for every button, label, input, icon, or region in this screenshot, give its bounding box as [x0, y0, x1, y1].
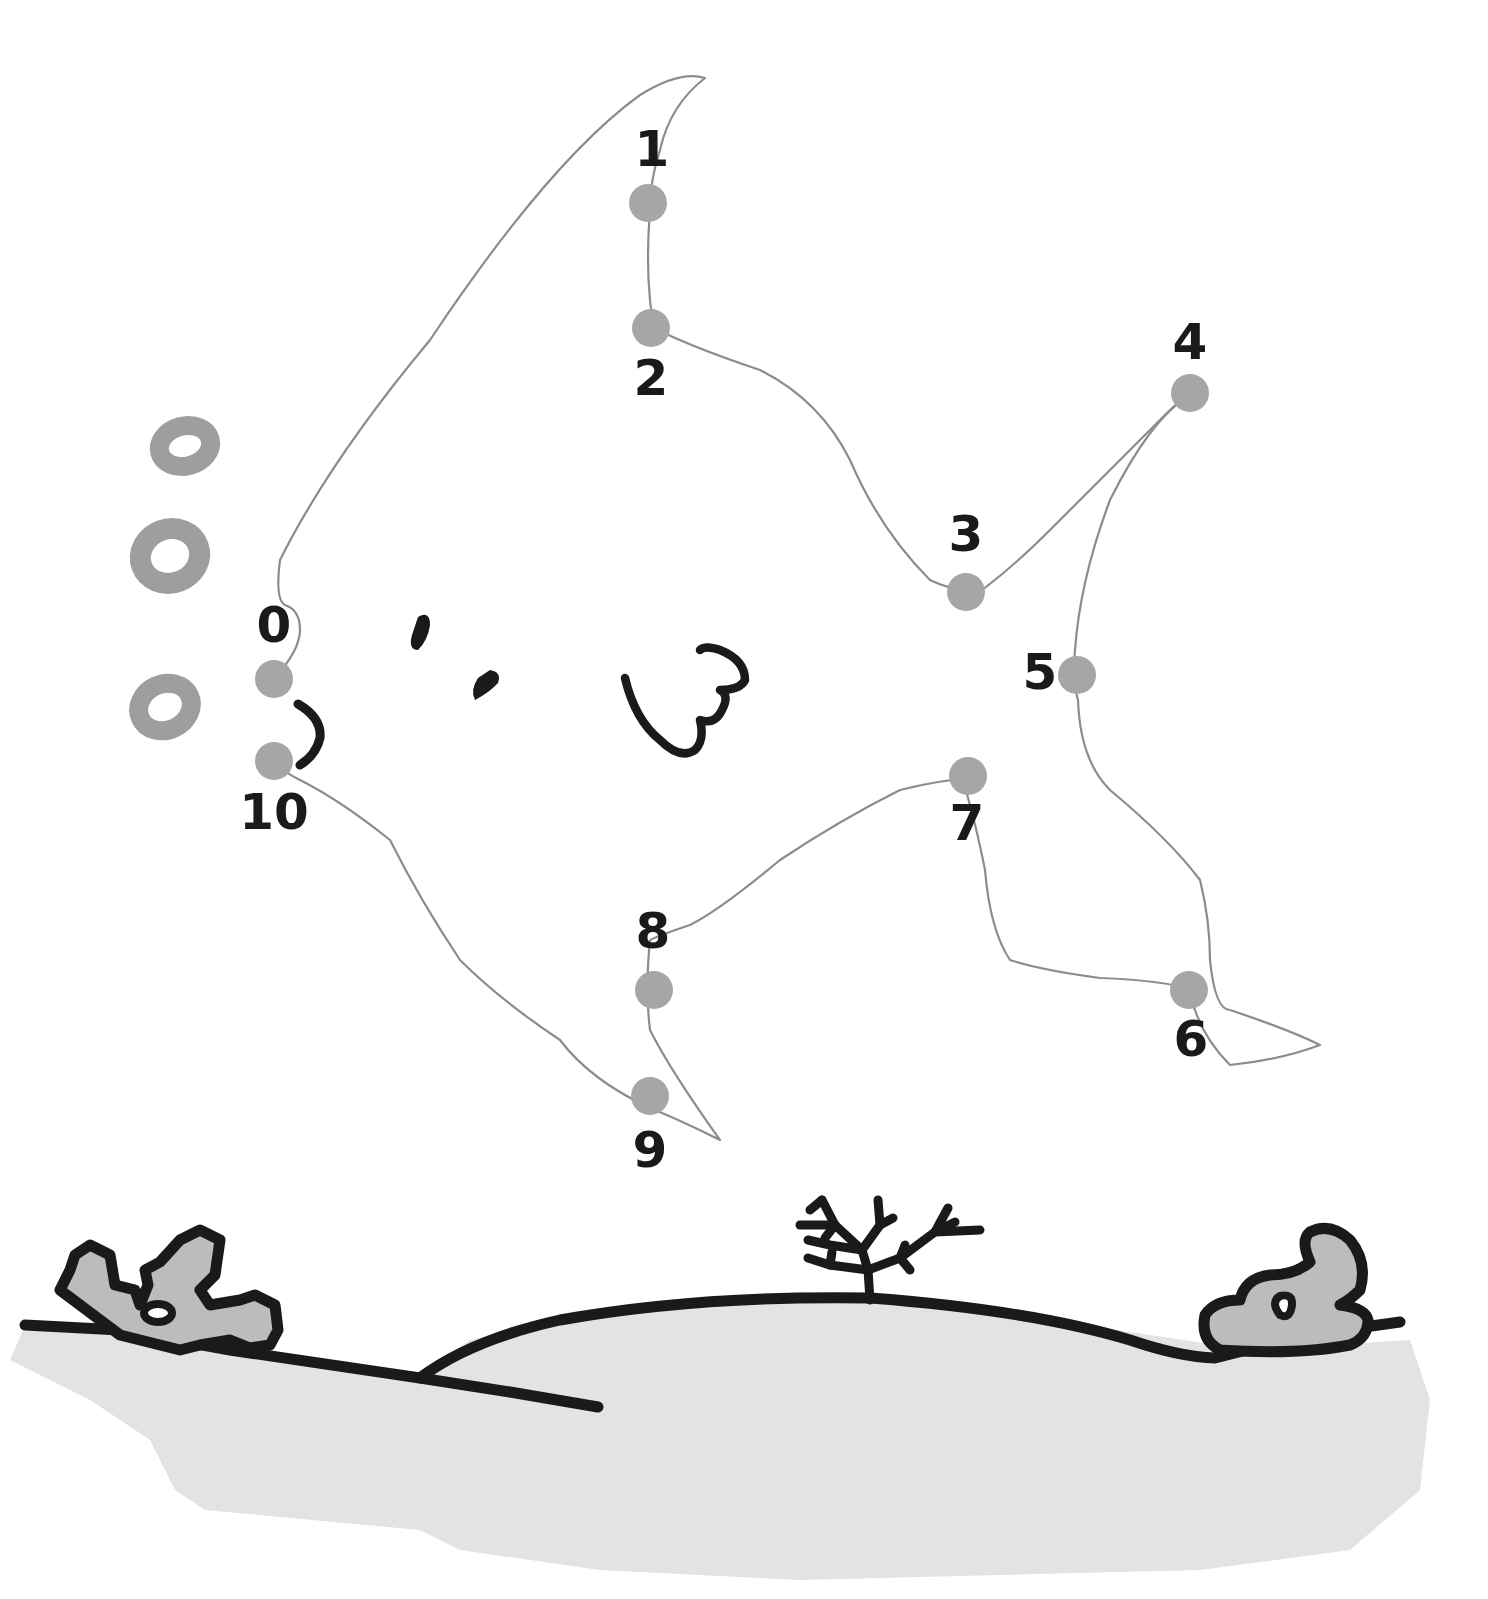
dot-marker[interactable] — [1170, 971, 1208, 1009]
dot-number-label: 6 — [1174, 1010, 1209, 1068]
outline-6-7 — [964, 778, 1195, 990]
dot-number-label: 9 — [633, 1121, 668, 1179]
bubble-middle — [133, 520, 208, 591]
dot-6[interactable]: 6 — [1170, 971, 1208, 1068]
dot-8[interactable]: 8 — [635, 902, 673, 1010]
dot-4[interactable]: 4 — [1171, 313, 1209, 413]
eye-left — [411, 615, 430, 650]
dot-number-label: 0 — [257, 596, 292, 654]
outline-9-10 — [274, 761, 650, 1108]
fish-face — [298, 615, 745, 765]
dot-9[interactable]: 9 — [631, 1077, 669, 1179]
dot-marker[interactable] — [629, 184, 667, 222]
dot-marker[interactable] — [631, 1077, 669, 1115]
bubbles — [131, 420, 215, 739]
fish-drawn-outline — [274, 76, 1320, 1140]
right-rock — [1204, 1228, 1368, 1351]
dot-number-label: 8 — [636, 902, 671, 960]
dot-marker[interactable] — [1171, 374, 1209, 412]
bubble-top — [155, 420, 216, 472]
dot-number-label: 7 — [950, 794, 985, 852]
seaweed — [800, 1200, 980, 1300]
outline-7-8 — [650, 778, 972, 940]
outline-2-3 — [662, 332, 970, 605]
connect-the-dots-fish-page: 012345678910 — [0, 0, 1488, 1599]
eye-right — [473, 670, 499, 700]
dot-marker[interactable] — [255, 742, 293, 780]
dot-marker[interactable] — [947, 573, 985, 611]
dot-number-label: 3 — [949, 505, 984, 563]
dot-number-label: 5 — [1023, 643, 1058, 701]
mouth-curve — [298, 704, 320, 765]
bubble-bottom — [131, 675, 199, 740]
dot-marker[interactable] — [635, 971, 673, 1009]
dot-number-label: 1 — [635, 120, 670, 178]
dot-1[interactable]: 1 — [629, 120, 669, 223]
dot-7[interactable]: 7 — [949, 757, 987, 852]
dot-marker[interactable] — [255, 660, 293, 698]
dot-marker[interactable] — [1058, 656, 1096, 694]
dot-number-label: 10 — [239, 783, 309, 841]
dot-5[interactable]: 5 — [1023, 643, 1096, 701]
dot-marker[interactable] — [949, 757, 987, 795]
dot-number-label: 2 — [634, 349, 669, 407]
dot-0[interactable]: 0 — [255, 596, 293, 699]
outline-4-5 — [1074, 396, 1188, 700]
dot-number-label: 4 — [1173, 313, 1208, 371]
dot-marker[interactable] — [632, 309, 670, 347]
dot-3[interactable]: 3 — [947, 505, 985, 612]
gill-fin — [625, 648, 745, 754]
dot-10[interactable]: 10 — [239, 742, 309, 841]
dot-2[interactable]: 2 — [632, 309, 670, 407]
